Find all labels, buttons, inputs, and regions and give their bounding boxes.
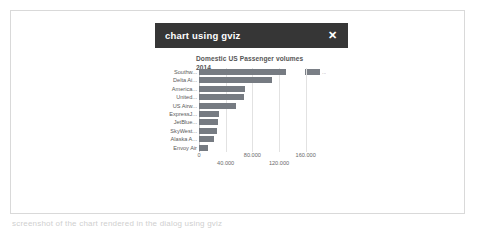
bar-row: United... [199, 93, 327, 101]
bar [199, 119, 218, 125]
bar-track: US Airw... [199, 102, 327, 110]
bar [199, 136, 214, 142]
bar-track: Delta Ai... [199, 76, 327, 84]
bar-track: America... [199, 85, 327, 93]
bar-track: ExpressJ... [199, 110, 327, 118]
bar-row: Envoy Air [199, 144, 327, 152]
close-icon[interactable]: ✕ [325, 28, 340, 43]
chart-dialog: chart using gviz ✕ Domestic US Passenger… [155, 23, 348, 193]
bar-chart: Domestic US Passenger volumes 2014 ... S… [155, 48, 348, 193]
category-label: SkyWest... [170, 128, 197, 134]
bar-track: JetBlue... [199, 118, 327, 126]
bar-row: JetBlue... [199, 118, 327, 126]
bar [199, 145, 208, 151]
bar [199, 111, 219, 117]
bar-row: Delta Ai... [199, 76, 327, 84]
category-label: Envoy Air [173, 145, 197, 151]
dialog-titlebar: chart using gviz ✕ [155, 23, 348, 48]
page-card: chart using gviz ✕ Domestic US Passenger… [10, 10, 465, 214]
bar [199, 77, 272, 83]
category-label: ExpressJ... [169, 111, 197, 117]
bar-row: SkyWest... [199, 127, 327, 135]
category-label: Alaska A... [171, 136, 197, 142]
bar-row: America... [199, 85, 327, 93]
bar-row: Alaska A... [199, 135, 327, 143]
bar [199, 128, 217, 134]
bar-row: ExpressJ... [199, 110, 327, 118]
bar-track: SkyWest... [199, 127, 327, 135]
category-label: US Airw... [173, 103, 197, 109]
bar-track: Southw... [199, 68, 327, 76]
category-label: America... [172, 86, 197, 92]
bar [199, 94, 244, 100]
x-axis-tick-label: 0 [197, 152, 200, 158]
x-axis-tick-label: 40.000 [217, 160, 234, 166]
clipped-caption: screenshot of the chart rendered in the … [12, 219, 472, 228]
category-label: JetBlue... [174, 119, 197, 125]
dialog-body: Domestic US Passenger volumes 2014 ... S… [155, 48, 348, 193]
x-axis-ticks: 040.00080.000120.000160.000 [155, 152, 348, 174]
x-axis-tick-label: 160.000 [296, 152, 316, 158]
bar-row: US Airw... [199, 102, 327, 110]
bar-track: United... [199, 93, 327, 101]
bar [199, 69, 286, 75]
x-axis-tick-label: 120.000 [269, 160, 289, 166]
dialog-title: chart using gviz [165, 30, 325, 41]
chart-title-line-1: Domestic US Passenger volumes [196, 55, 321, 64]
bar-track: Envoy Air [199, 144, 327, 152]
bar [199, 86, 245, 92]
category-label: Delta Ai... [173, 77, 197, 83]
category-label: Southw... [174, 69, 197, 75]
bar-row: Southw... [199, 68, 327, 76]
bar-track: Alaska A... [199, 135, 327, 143]
category-label: United... [176, 94, 197, 100]
x-axis-tick-label: 80.000 [244, 152, 261, 158]
bar [199, 103, 236, 109]
